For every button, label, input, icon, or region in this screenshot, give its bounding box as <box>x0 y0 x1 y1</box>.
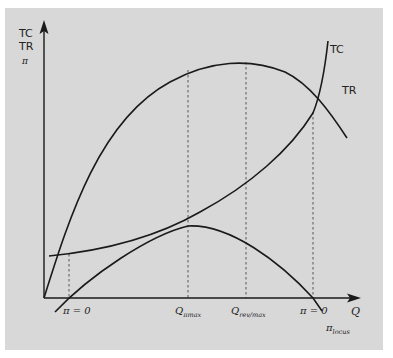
y-label-profit: π <box>21 56 29 66</box>
x-label-q-revmax: Qrev/max <box>231 305 266 319</box>
curve-label-tr: TR <box>341 84 357 97</box>
dashed-guides <box>69 62 313 298</box>
y-label-tc: TC <box>18 27 33 40</box>
y-label-tr: TR <box>18 40 34 53</box>
tr-curve <box>44 63 347 298</box>
cost-revenue-profit-diagram: TC TR π TC TR π = 0 Qπmax Qrev/max π = 0… <box>0 0 393 358</box>
x-label-q-pimax: Qπmax <box>175 305 202 319</box>
x-axis-label-q: Q <box>351 305 360 318</box>
profit-curve <box>55 226 322 312</box>
curve-label-tc: TC <box>329 43 344 56</box>
x-label-pi-zero-left: π = 0 <box>62 305 91 316</box>
x-label-pi-zero-right: π = 0 <box>299 305 328 316</box>
pi-locus-label: πlocus <box>325 322 350 336</box>
